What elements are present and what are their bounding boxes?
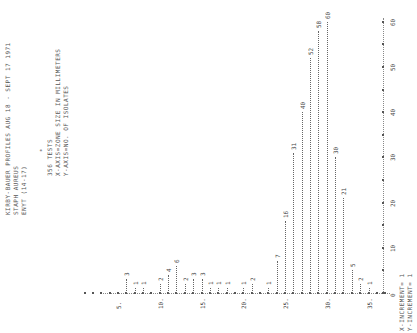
- bar-value-label: 31: [290, 143, 297, 150]
- bar: [243, 288, 244, 293]
- bar-value-label: 60: [324, 12, 331, 19]
- x-tick-label: 35.: [366, 298, 373, 309]
- bar-value-label: 7: [274, 255, 281, 259]
- y-tick-label: 0: [389, 293, 396, 297]
- x-tick: [92, 292, 94, 294]
- bar: [135, 288, 136, 293]
- y-tick: [382, 179, 384, 181]
- x-tick: [84, 292, 86, 294]
- x-tick-label: 15.: [199, 298, 206, 309]
- y-tick: [382, 156, 384, 158]
- y-tick: [382, 21, 384, 23]
- bar-value-label: 4: [165, 268, 172, 272]
- bar: [193, 279, 194, 293]
- bar-value-label: 16: [282, 210, 289, 217]
- bar-value-label: 52: [307, 48, 314, 55]
- y-tick-label: 60: [389, 19, 396, 26]
- y-tick: [382, 292, 384, 294]
- bar-value-label: 1: [132, 282, 139, 286]
- bar: [126, 279, 127, 293]
- y-tick: [382, 66, 384, 68]
- bar-value-label: 2: [182, 277, 189, 281]
- y-axis-description: Y-AXIS=NO. OF ISOLATES: [62, 86, 69, 176]
- y-tick: [382, 202, 384, 204]
- bar: [277, 261, 278, 293]
- y-tick: [382, 111, 384, 113]
- bar: [318, 31, 319, 293]
- bar-value-label: 1: [240, 282, 247, 286]
- y-tick-label: 50: [389, 64, 396, 71]
- x-tick: [100, 292, 102, 294]
- bar-value-label: 1: [224, 282, 231, 286]
- x-tick-label: 30.: [324, 298, 331, 309]
- bar: [335, 157, 336, 293]
- bar-value-label: 3: [190, 273, 197, 277]
- x-tick-label: 5.: [115, 302, 122, 309]
- bar: [293, 153, 294, 293]
- bar: [210, 288, 211, 293]
- y-tick-label: 30: [389, 154, 396, 161]
- y-increment: Y-INCREMENT= 1: [406, 273, 413, 331]
- bar-value-label: 3: [123, 273, 130, 277]
- bar: [285, 221, 286, 293]
- bar: [369, 288, 370, 293]
- bar: [202, 279, 203, 293]
- bar: [176, 266, 177, 293]
- bar-value-label: 58: [315, 21, 322, 28]
- bar-value-label: 1: [140, 282, 147, 286]
- bar: [185, 284, 186, 293]
- bar: [252, 284, 253, 293]
- y-tick: [382, 89, 384, 91]
- bar-value-label: 40: [299, 102, 306, 109]
- bar-value-label: 1: [207, 282, 214, 286]
- y-tick: [382, 43, 384, 45]
- x-tick: [150, 292, 152, 294]
- bar: [218, 288, 219, 293]
- bar-value-label: 5: [349, 264, 356, 268]
- bar-value-label: 1: [265, 282, 272, 286]
- y-tick: [382, 224, 384, 226]
- y-tick-label: 40: [389, 109, 396, 116]
- bar-value-label: 21: [340, 188, 347, 195]
- bar: [352, 270, 353, 293]
- x-axis-description: X-AXIS=ZONE SIZE IN MILLIMETERS: [54, 49, 61, 176]
- bar-value-label: 1: [215, 282, 222, 286]
- bar: [143, 288, 144, 293]
- bar-value-label: 2: [157, 277, 164, 281]
- x-tick: [259, 292, 261, 294]
- title-line: KIRBY-BAUER PROFILES AUG 18 - SEPT 17 19…: [4, 42, 11, 215]
- bar-value-label: 6: [173, 259, 180, 263]
- bar: [268, 288, 269, 293]
- marker: *: [38, 148, 45, 152]
- y-tick-label: 20: [389, 199, 396, 206]
- x-tick-label: 25.: [282, 298, 289, 309]
- x-increment: X-INCREMENT= 1: [398, 273, 405, 331]
- x-tick: [117, 292, 119, 294]
- bar-value-label: 3: [199, 273, 206, 277]
- x-tick: [384, 292, 386, 294]
- bar: [160, 284, 161, 293]
- bar: [227, 288, 228, 293]
- organism-line: STAPH AUREUS: [12, 166, 19, 215]
- bar: [327, 22, 328, 293]
- antibiotic-line: ENYT (14-17): [20, 166, 27, 215]
- bar: [360, 284, 361, 293]
- bar-value-label: 30: [332, 147, 339, 154]
- bar-value-label: 2: [357, 277, 364, 281]
- bar: [302, 112, 303, 293]
- bar: [168, 275, 169, 293]
- x-tick-label: 20.: [240, 298, 247, 309]
- x-tick: [234, 292, 236, 294]
- bar-value-label: 1: [366, 282, 373, 286]
- y-tick: [382, 134, 384, 136]
- tests-count: 356 TESTS: [46, 139, 53, 176]
- y-tick: [382, 269, 384, 271]
- y-tick: [382, 247, 384, 249]
- x-tick: [109, 292, 111, 294]
- x-tick-label: 10.: [157, 298, 164, 309]
- bar: [343, 198, 344, 293]
- bar: [310, 58, 311, 293]
- y-tick-label: 10: [389, 245, 396, 252]
- bar-value-label: 2: [249, 277, 256, 281]
- x-tick: [376, 292, 378, 294]
